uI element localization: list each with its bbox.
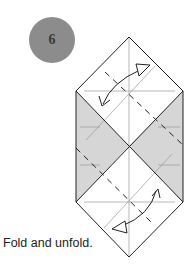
shaded-right-flap	[129, 91, 183, 202]
instruction-caption: Fold and unfold.	[3, 236, 93, 250]
fold-unfold-arrow-top	[99, 64, 150, 106]
shaded-left-flap	[76, 91, 129, 202]
origami-fold-diagram	[0, 0, 193, 273]
